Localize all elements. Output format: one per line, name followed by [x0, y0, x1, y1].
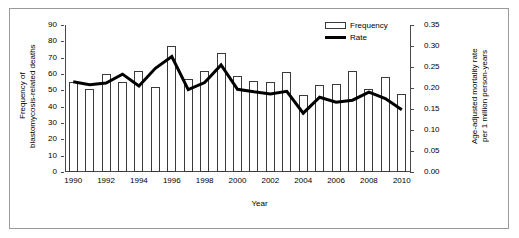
y-left-tick-mark — [61, 123, 64, 124]
y-axis-right-line — [410, 25, 411, 173]
x-tick-label: 1994 — [124, 176, 154, 185]
y-right-tick-mark — [411, 67, 414, 68]
y-left-tick-label: 0 — [53, 168, 57, 176]
y-right-tick-label: 0.25 — [424, 63, 440, 71]
x-tick-label: 2004 — [288, 176, 318, 185]
y-right-tick-label: 0.30 — [424, 42, 440, 50]
legend-label-frequency: Frequency — [350, 21, 388, 30]
y-right-tick-mark — [411, 88, 414, 89]
y-right-tick-mark — [411, 172, 414, 173]
y-right-tick-label: 0.05 — [424, 147, 440, 155]
y-left-tick-label: 80 — [48, 37, 57, 45]
y-left-tick-label: 40 — [48, 103, 57, 111]
chart-legend: Frequency Rate — [325, 20, 388, 44]
y-left-tick-label: 50 — [48, 86, 57, 94]
y-axis-left-ticks: 0102030405060708090 — [40, 0, 61, 238]
y-axis-right-ticks: 0.000.050.100.150.200.250.300.35 — [416, 0, 446, 238]
chart-figure: Frequency of blastomycosis-related death… — [0, 0, 519, 238]
y-right-tick-label: 0.35 — [424, 21, 440, 29]
y-right-tick-mark — [411, 109, 414, 110]
x-tick-label: 1990 — [58, 176, 88, 185]
legend-swatch-bar-icon — [325, 22, 346, 29]
y-right-tick-mark — [411, 25, 414, 26]
line-series-rate — [65, 25, 410, 172]
legend-label-rate: Rate — [350, 33, 367, 42]
x-tick-label: 1992 — [91, 176, 121, 185]
y-left-tick-label: 30 — [48, 119, 57, 127]
legend-item-frequency: Frequency — [325, 20, 388, 30]
y-left-tick-label: 20 — [48, 135, 57, 143]
x-tick-label: 2002 — [255, 176, 285, 185]
y-left-tick-mark — [61, 58, 64, 59]
x-tick-label: 1998 — [190, 176, 220, 185]
y-left-tick-label: 70 — [48, 54, 57, 62]
rate-polyline — [73, 57, 402, 114]
y-right-tick-label: 0.10 — [424, 126, 440, 134]
y-left-tick-mark — [61, 107, 64, 108]
x-tick-label: 1996 — [157, 176, 187, 185]
legend-item-rate: Rate — [325, 32, 388, 42]
y-left-tick-mark — [61, 41, 64, 42]
legend-swatch-line-icon — [325, 36, 346, 39]
y-right-tick-label: 0.15 — [424, 105, 440, 113]
y-axis-right-title: Age-adjusted mortality rate per 1 millio… — [470, 22, 489, 170]
y-left-tick-label: 60 — [48, 70, 57, 78]
x-tick-label: 2008 — [354, 176, 384, 185]
y-axis-left-title: Frequency of blastomycosis-related death… — [18, 22, 37, 170]
y-left-tick-mark — [61, 90, 64, 91]
y-left-tick-mark — [61, 25, 64, 26]
x-tick-label: 2000 — [223, 176, 253, 185]
y-left-tick-mark — [61, 139, 64, 140]
y-right-tick-mark — [411, 46, 414, 47]
y-right-tick-label: 0.20 — [424, 84, 440, 92]
y-left-tick-mark — [61, 74, 64, 75]
y-right-tick-label: 0.00 — [424, 168, 440, 176]
y-left-tick-label: 90 — [48, 21, 57, 29]
y-left-tick-label: 10 — [48, 152, 57, 160]
x-tick-label: 2010 — [387, 176, 417, 185]
x-tick-label: 2006 — [321, 176, 351, 185]
y-left-tick-mark — [61, 172, 64, 173]
y-right-tick-mark — [411, 151, 414, 152]
y-left-tick-mark — [61, 156, 64, 157]
plot-area — [65, 25, 410, 172]
y-right-tick-mark — [411, 130, 414, 131]
